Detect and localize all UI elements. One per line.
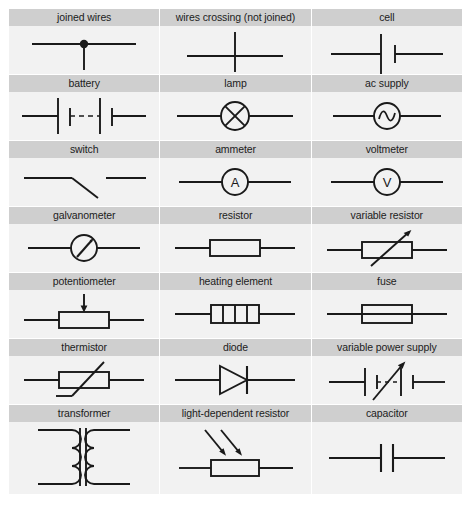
symbol-cell-diode: diode xyxy=(160,339,311,405)
capacitor-symbol xyxy=(312,422,462,494)
symbol-cell-capacitor: capacitor xyxy=(312,405,462,494)
ammeter-letter: A xyxy=(231,175,240,190)
symbol-label: battery xyxy=(9,75,159,92)
switch-symbol xyxy=(9,158,159,207)
battery-symbol xyxy=(9,92,159,141)
symbol-label: diode xyxy=(160,339,310,356)
symbol-label: variable power supply xyxy=(312,339,462,356)
symbol-row: battery lamp xyxy=(9,75,462,141)
symbol-cell-lamp: lamp xyxy=(160,75,311,141)
ac-supply-symbol xyxy=(312,92,462,141)
symbol-label: galvanometer xyxy=(9,207,159,224)
variable-power-supply-symbol xyxy=(312,356,462,405)
potentiometer-symbol xyxy=(9,290,159,339)
heating-element-symbol xyxy=(160,290,310,339)
symbol-label: switch xyxy=(9,141,159,158)
lamp-symbol xyxy=(160,92,310,141)
symbol-cell-thermistor: thermistor xyxy=(9,339,160,405)
symbol-cell-fuse: fuse xyxy=(312,273,462,339)
symbol-label: lamp xyxy=(160,75,310,92)
symbol-label: fuse xyxy=(312,273,462,290)
circuit-symbols-chart: joined wires wires crossing (not joined)… xyxy=(9,9,462,494)
variable-resistor-symbol xyxy=(312,224,462,273)
symbol-label: wires crossing (not joined) xyxy=(160,9,310,26)
symbol-row: galvanometer resistor xyxy=(9,207,462,273)
voltmeter-symbol: V xyxy=(312,158,462,207)
symbol-label: potentiometer xyxy=(9,273,159,290)
symbol-cell-transformer: transformer xyxy=(9,405,160,494)
symbol-label: ammeter xyxy=(160,141,310,158)
voltmeter-letter: V xyxy=(382,175,391,190)
resistor-symbol xyxy=(160,224,310,273)
symbol-cell-voltmeter: voltmeter V xyxy=(312,141,462,207)
symbol-cell-potentiometer: potentiometer xyxy=(9,273,160,339)
cell-symbol xyxy=(312,26,462,75)
fuse-symbol xyxy=(312,290,462,339)
symbol-cell-resistor: resistor xyxy=(160,207,311,273)
symbol-cell-ammeter: ammeter A xyxy=(160,141,311,207)
ammeter-symbol: A xyxy=(160,158,310,207)
symbol-cell-wires-crossing: wires crossing (not joined) xyxy=(160,9,311,75)
symbol-cell-galvanometer: galvanometer xyxy=(9,207,160,273)
diode-symbol xyxy=(160,356,310,405)
wires-crossing-symbol xyxy=(160,26,310,75)
symbol-cell-variable-power-supply: variable power supply xyxy=(312,339,462,405)
symbol-cell-joined-wires: joined wires xyxy=(9,9,160,75)
galvanometer-symbol xyxy=(9,224,159,273)
symbol-cell-switch: switch xyxy=(9,141,160,207)
ldr-symbol xyxy=(160,422,310,494)
symbol-label: thermistor xyxy=(9,339,159,356)
symbol-cell-heating-element: heating element xyxy=(160,273,311,339)
symbol-label: joined wires xyxy=(9,9,159,26)
symbol-label: voltmeter xyxy=(312,141,462,158)
symbol-label: resistor xyxy=(160,207,310,224)
symbol-label: variable resistor xyxy=(312,207,462,224)
symbol-label: cell xyxy=(312,9,462,26)
symbol-label: ac supply xyxy=(312,75,462,92)
joined-wires-symbol xyxy=(9,26,159,75)
transformer-symbol xyxy=(9,422,159,494)
symbol-cell-battery: battery xyxy=(9,75,160,141)
symbol-cell-ac-supply: ac supply xyxy=(312,75,462,141)
symbol-row: potentiometer heating element xyxy=(9,273,462,339)
thermistor-symbol xyxy=(9,356,159,405)
symbol-cell-light-dependent-resistor: light-dependent resistor xyxy=(160,405,311,494)
symbol-label: light-dependent resistor xyxy=(160,405,310,422)
symbol-row: switch ammeter A voltmeter xyxy=(9,141,462,207)
symbol-cell-variable-resistor: variable resistor xyxy=(312,207,462,273)
symbol-cell-cell: cell xyxy=(312,9,462,75)
symbol-row: joined wires wires crossing (not joined)… xyxy=(9,9,462,75)
symbol-label: transformer xyxy=(9,405,159,422)
symbol-label: heating element xyxy=(160,273,310,290)
symbol-row: thermistor diode xyxy=(9,339,462,405)
symbol-label: capacitor xyxy=(312,405,462,422)
symbol-row: transformer light-dependent resistor xyxy=(9,405,462,494)
